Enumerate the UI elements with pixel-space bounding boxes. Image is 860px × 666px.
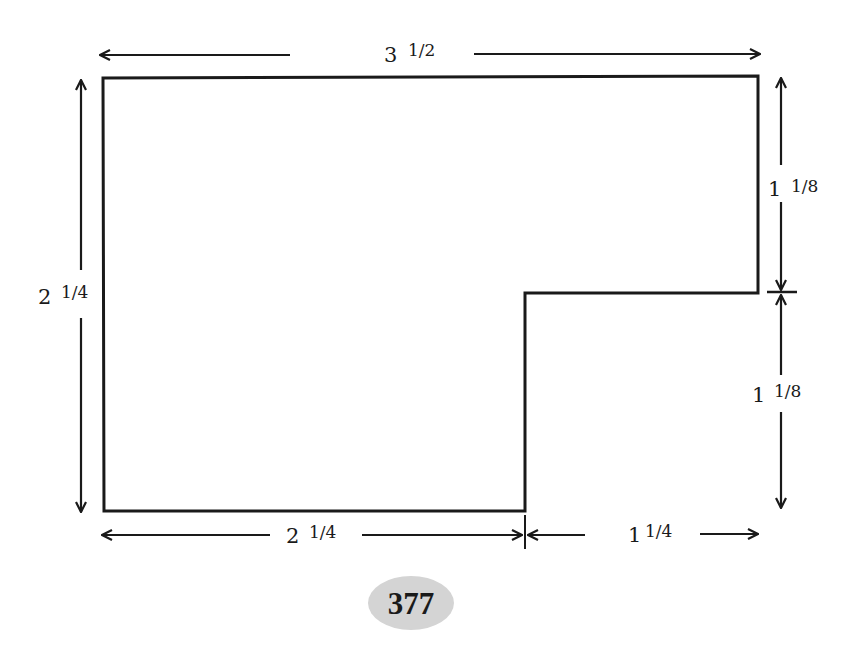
- dim-label-bottom-right-whole: 1: [628, 523, 641, 547]
- dim-label-bottom-left-fraction: 1/4: [309, 522, 336, 542]
- dim-label-bottom-left-whole: 2: [286, 524, 299, 548]
- right-lower-dimension: 1 1/8: [752, 295, 801, 508]
- dim-label-right-upper-fraction: 1/8: [791, 176, 818, 196]
- left-dimension: 2 1/4: [38, 80, 88, 512]
- bottom-left-dimension: 2 1/4: [102, 522, 522, 548]
- dim-label-left-whole: 2: [38, 285, 51, 309]
- page-number-badge: 377: [368, 576, 454, 630]
- bottom-right-dimension: 1 1/4: [528, 521, 758, 547]
- l-shape-outline: [103, 76, 758, 511]
- page-number: 377: [388, 586, 435, 621]
- dim-label-left-fraction: 1/4: [61, 282, 88, 302]
- dim-label-right-lower-whole: 1: [752, 383, 765, 407]
- dim-label-right-lower-fraction: 1/8: [774, 381, 801, 401]
- top-dimension: 3 1/2: [100, 40, 760, 67]
- dim-label-top-whole: 3: [384, 43, 397, 67]
- dimension-diagram: 3 1/2 2 1/4 1 1/8 1 1/8 2 1/4 1 1/4: [0, 0, 860, 666]
- dim-label-top-fraction: 1/2: [408, 40, 435, 60]
- dim-label-bottom-right-fraction: 1/4: [645, 521, 672, 541]
- dim-label-right-upper-whole: 1: [768, 177, 781, 201]
- right-upper-dimension: 1 1/8: [768, 78, 818, 290]
